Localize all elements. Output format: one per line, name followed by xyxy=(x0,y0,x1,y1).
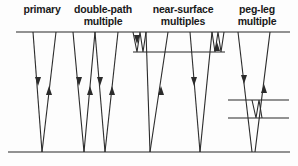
arrowhead-double-down-arrow-2 xyxy=(97,77,103,86)
raypath-double-down-2 xyxy=(95,32,105,152)
raypath-canvas xyxy=(0,0,298,166)
raypath-pegleg-down xyxy=(238,32,252,152)
raypath-nearsurf-up-2 xyxy=(200,32,212,152)
arrowhead-nearsurf-down-arrow-2 xyxy=(191,77,197,86)
raypath-nearsurf-down-2 xyxy=(190,32,200,152)
arrowhead-pegleg-up-arrow xyxy=(261,84,267,93)
raypath-nearsurf-down-1 xyxy=(146,32,150,152)
arrowhead-double-up-arrow-1 xyxy=(87,86,93,95)
seismic-raypath-figure: primary double-path multiple near-surfac… xyxy=(0,0,298,166)
arrowhead-pegleg-down-arrow xyxy=(241,75,247,84)
arrowhead-primary-up-arrow xyxy=(46,86,52,95)
arrowhead-primary-down-arrow xyxy=(35,77,41,86)
ray-paths xyxy=(33,32,270,152)
arrowhead-nearsurf-zig-arrow-r xyxy=(214,42,220,51)
ray-direction-arrows xyxy=(35,35,267,95)
arrowhead-double-down-arrow-1 xyxy=(76,77,82,86)
raypath-primary-down xyxy=(33,32,42,152)
raypath-double-down-1 xyxy=(73,32,84,152)
arrowhead-double-up-arrow-2 xyxy=(109,86,115,95)
